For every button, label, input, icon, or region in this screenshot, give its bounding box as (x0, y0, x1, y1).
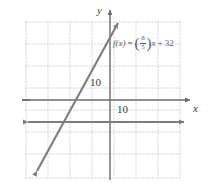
equation-plus-sign: + (158, 39, 163, 48)
equation-slope-fraction: 8 5 (140, 35, 146, 51)
function-equation-label: f(x) = ( 8 5 ) x + 32 (113, 35, 174, 51)
equation-open-paren: ( (135, 38, 140, 49)
graph-figure: y x 10 10 f(x) = ( 8 5 ) x + 32 (0, 0, 208, 194)
equation-fraction-denominator: 5 (140, 44, 146, 51)
function-line (37, 23, 118, 171)
y-axis-label: y (97, 5, 102, 16)
equation-intercept: 32 (165, 39, 174, 48)
coordinate-plane (0, 0, 208, 194)
x-axis-label: x (193, 103, 198, 114)
y-axis-tick-label-10: 10 (90, 77, 101, 88)
equation-variable: x (152, 39, 156, 48)
equation-equals-sign: = (128, 39, 133, 48)
x-axis-tick-label-10: 10 (117, 104, 128, 115)
equation-function-name: f(x) (113, 39, 126, 48)
equation-fraction-numerator: 8 (140, 35, 146, 42)
